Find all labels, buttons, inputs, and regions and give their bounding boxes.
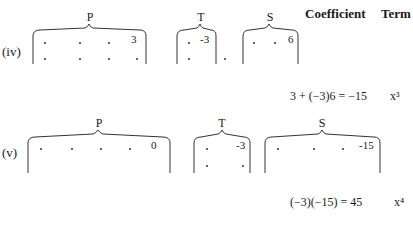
header-coefficient: Coefficient bbox=[305, 6, 366, 22]
coefficient-equation: (−3)(−15) = 45 bbox=[290, 195, 362, 210]
group-p-value: 0 bbox=[151, 139, 157, 151]
dot bbox=[206, 165, 208, 167]
group-t-value: -3 bbox=[200, 33, 209, 45]
dot bbox=[79, 42, 81, 44]
dot bbox=[274, 42, 276, 44]
dot bbox=[108, 58, 110, 60]
dot bbox=[100, 148, 102, 150]
dot bbox=[224, 58, 226, 60]
dot bbox=[277, 148, 279, 150]
header-term: Term bbox=[381, 6, 411, 22]
group-p-letter: P bbox=[84, 10, 96, 25]
dot bbox=[44, 42, 46, 44]
group-s-value: -15 bbox=[359, 139, 374, 151]
row-label: (iv) bbox=[2, 44, 21, 60]
dot bbox=[188, 58, 190, 60]
group-p-value: 3 bbox=[131, 33, 137, 45]
dot bbox=[44, 58, 46, 60]
group-t-letter: T bbox=[216, 116, 228, 131]
dot bbox=[129, 148, 131, 150]
dot bbox=[108, 42, 110, 44]
group-s-letter: S bbox=[316, 116, 328, 131]
group-p-letter: P bbox=[93, 116, 105, 131]
dot bbox=[253, 42, 255, 44]
row-label: (v) bbox=[2, 145, 17, 161]
coefficient-equation: 3 + (−3)6 = −15 bbox=[290, 89, 367, 104]
dot bbox=[71, 148, 73, 150]
dot bbox=[136, 58, 138, 60]
group-s-value: 6 bbox=[288, 33, 294, 45]
dot bbox=[313, 148, 315, 150]
dot bbox=[40, 148, 42, 150]
dot bbox=[342, 148, 344, 150]
dot bbox=[79, 58, 81, 60]
term: x⁴ bbox=[394, 195, 404, 210]
dot bbox=[242, 165, 244, 167]
term: x³ bbox=[390, 89, 400, 104]
group-s-letter: S bbox=[264, 10, 276, 25]
dot bbox=[206, 148, 208, 150]
group-t-value: -3 bbox=[236, 139, 245, 151]
group-t-letter: T bbox=[195, 10, 207, 25]
dot bbox=[188, 42, 190, 44]
